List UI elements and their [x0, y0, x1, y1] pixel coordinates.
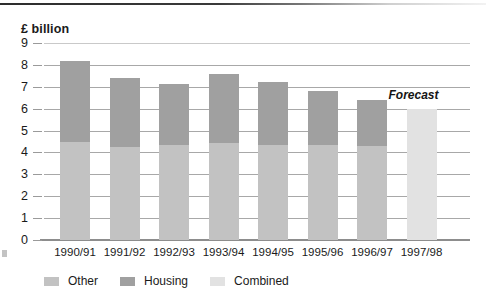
bar-1993-94 [209, 74, 239, 240]
y-tick-label: 4 [2, 146, 28, 159]
y-tick-mark [33, 196, 42, 197]
bar-segment-other [209, 143, 239, 240]
y-tick-mark [33, 65, 42, 66]
bar-1997-98 [407, 109, 437, 240]
legend-label: Housing [144, 274, 188, 288]
legend-item-housing[interactable]: Housing [120, 274, 188, 288]
bar-segment-housing [209, 74, 239, 143]
y-tick-label: 9 [2, 37, 28, 50]
bar-segment-other [308, 145, 338, 240]
bar-segment-other [110, 147, 140, 240]
y-tick-mark [33, 109, 42, 110]
x-tick-label: 1993/94 [199, 246, 249, 259]
legend-item-combined[interactable]: Combined [210, 274, 289, 288]
x-axis-line [40, 239, 470, 241]
bar-1990-91 [60, 61, 90, 240]
x-tick-label: 1992/93 [149, 246, 199, 259]
scan-artifact [2, 250, 7, 257]
legend-swatch-icon [44, 277, 59, 286]
bar-segment-housing [110, 78, 140, 147]
y-tick-label: 0 [2, 234, 28, 247]
forecast-annotation: Forecast [389, 88, 439, 102]
chart-legend: OtherHousingCombined [44, 274, 311, 288]
legend-swatch-icon [210, 277, 225, 286]
legend-item-other[interactable]: Other [44, 274, 98, 288]
bar-segment-other [159, 145, 189, 240]
bar-segment-other [357, 146, 387, 240]
y-tick-label: 6 [2, 102, 28, 115]
bar-1995-96 [308, 91, 338, 240]
x-tick-label: 1990/91 [50, 246, 100, 259]
y-tick-mark [33, 174, 42, 175]
chart-figure: £ billion 0123456789 1990/911991/921992/… [0, 0, 486, 302]
bar-segment-housing [60, 61, 90, 142]
bar-1991-92 [110, 78, 140, 240]
y-tick-label: 3 [2, 168, 28, 181]
legend-swatch-icon [120, 277, 135, 286]
x-tick-label: 1991/92 [100, 246, 150, 259]
bar-1992-93 [159, 84, 189, 241]
bar-1994-95 [258, 82, 288, 240]
y-axis-title: £ billion [21, 22, 69, 36]
plot-area: 0123456789 [44, 43, 470, 240]
y-tick-mark [33, 43, 42, 44]
x-tick-label: 1996/97 [347, 246, 397, 259]
y-tick-label: 7 [2, 81, 28, 94]
bar-segment-housing [308, 91, 338, 145]
y-tick-mark [33, 240, 42, 241]
y-tick-mark [33, 87, 42, 88]
bar-1996-97 [357, 100, 387, 240]
y-tick-label: 1 [2, 212, 28, 225]
page-top-rule [0, 3, 486, 5]
y-tick-label: 8 [2, 59, 28, 72]
x-tick-label: 1997/98 [397, 246, 447, 259]
bar-segment-housing [159, 84, 189, 145]
bar-segment-combined [407, 109, 437, 240]
x-tick-label: 1995/96 [298, 246, 348, 259]
y-tick-mark [33, 152, 42, 153]
bar-segment-housing [258, 82, 288, 144]
legend-label: Combined [234, 274, 289, 288]
y-tick-mark [33, 218, 42, 219]
y-tick-label: 2 [2, 190, 28, 203]
legend-label: Other [68, 274, 98, 288]
bar-segment-other [258, 145, 288, 240]
bar-segment-housing [357, 100, 387, 146]
gridline [44, 65, 470, 66]
gridline [44, 43, 470, 44]
y-tick-mark [33, 131, 42, 132]
y-tick-label: 5 [2, 124, 28, 137]
bar-segment-other [60, 142, 90, 241]
x-tick-label: 1994/95 [248, 246, 298, 259]
